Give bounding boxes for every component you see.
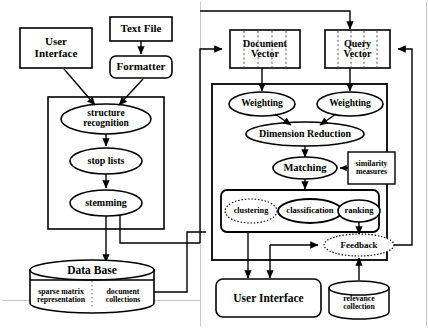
edge-top-to-queryvector — [200, 11, 350, 29]
user-interface-bottom-box — [216, 279, 321, 317]
diagram-vector-layer — [0, 0, 428, 328]
weighting-right-ellipse — [317, 92, 383, 116]
clustering-ellipse — [225, 199, 277, 223]
user-interface-top-box — [20, 28, 92, 68]
edge-database-to-right — [154, 232, 206, 292]
matching-ellipse — [273, 157, 337, 179]
formatter-box — [110, 56, 172, 78]
text-file-box — [110, 17, 172, 41]
relevance-collection-cylinder — [329, 281, 389, 319]
diagram-canvas: User Interface Text File Formatter struc… — [0, 0, 428, 328]
weighting-left-ellipse — [229, 92, 295, 116]
stemming-ellipse — [70, 190, 142, 216]
database-cylinder — [30, 260, 154, 313]
classification-ellipse — [278, 199, 342, 223]
feedback-ellipse — [324, 234, 394, 256]
similarity-measures-box — [348, 152, 395, 184]
ranking-ellipse — [338, 200, 380, 222]
document-vector-box — [230, 30, 300, 68]
query-vector-box — [325, 30, 390, 68]
stop-lists-ellipse — [70, 148, 142, 174]
dimension-reduction-ellipse — [246, 122, 364, 146]
edge-feedback-to-queryvector — [394, 49, 412, 245]
structure-recognition-ellipse — [61, 104, 151, 134]
